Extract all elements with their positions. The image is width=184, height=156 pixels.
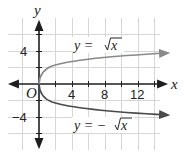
square-root-graph: y x O 4 8 12 4 −4 y = x y = − x bbox=[0, 0, 184, 156]
svg-text:y = −: y = − bbox=[72, 118, 106, 133]
svg-text:x: x bbox=[120, 118, 128, 133]
label-sqrt-x: y = x bbox=[72, 37, 124, 53]
svg-text:y =: y = bbox=[72, 38, 97, 53]
label-neg-sqrt-x: y = − x bbox=[72, 117, 134, 133]
curve-sqrt-x bbox=[39, 53, 168, 84]
origin-label: O bbox=[26, 85, 37, 101]
svg-text:x: x bbox=[110, 38, 118, 53]
y-tick-label-4: 4 bbox=[20, 44, 27, 59]
y-tick-label-neg4: −4 bbox=[12, 110, 27, 125]
x-axis-label: x bbox=[170, 76, 178, 92]
x-tick-label-8: 8 bbox=[101, 87, 108, 102]
x-tick-label-12: 12 bbox=[130, 87, 144, 102]
y-axis-label: y bbox=[32, 2, 41, 18]
x-tick-label-4: 4 bbox=[68, 87, 75, 102]
